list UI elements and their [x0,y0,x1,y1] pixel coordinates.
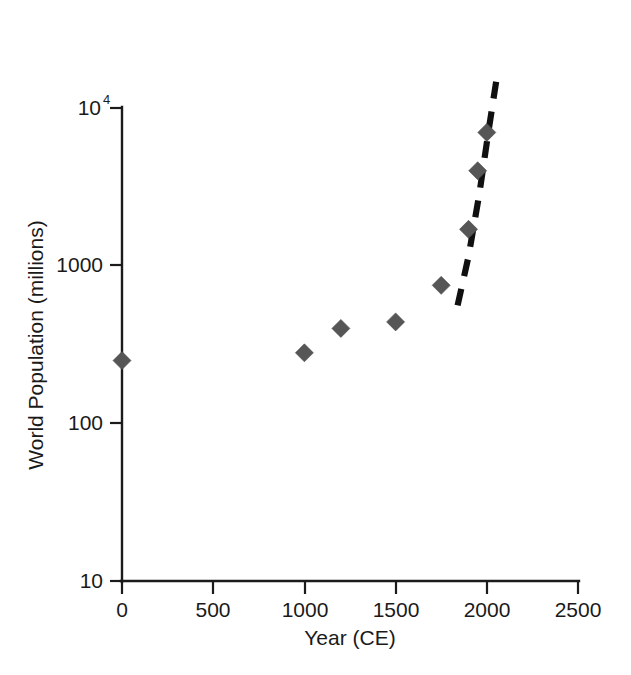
data-point-marker [113,352,131,370]
data-point-marker [478,123,496,141]
population-chart: 10 4 1000 100 10 World Population (milli… [0,0,631,675]
y-tick-label-1000: 1000 [56,253,103,276]
trend-annotation-group [458,72,498,306]
x-tick-label-1000: 1000 [282,598,329,621]
x-tick-label-2500: 2500 [555,598,602,621]
y-tick-label-10: 10 [80,569,103,592]
y-axis-title: World Population (millions) [24,220,47,469]
data-point-marker [432,276,450,294]
x-tick-label-2000: 2000 [464,598,511,621]
data-point-marker [332,319,350,337]
y-tick-label-100: 100 [68,411,103,434]
x-tick-label-0: 0 [116,598,128,621]
data-point-series [113,123,496,369]
y-tick-label-10000-base: 10 [78,96,101,119]
data-point-marker [295,344,313,362]
y-tick-label-10000-exponent: 4 [103,92,110,107]
x-axis: 0 500 1000 1500 2000 2500 Year (CE) [116,581,601,649]
data-point-marker [387,313,405,331]
x-tick-label-500: 500 [195,598,230,621]
x-axis-title: Year (CE) [304,626,395,649]
chart-canvas: 10 4 1000 100 10 World Population (milli… [0,0,631,675]
exponential-trend-dashed-line [458,72,498,306]
y-axis: 10 4 1000 100 10 World Population (milli… [24,92,122,592]
x-tick-label-1500: 1500 [373,598,420,621]
